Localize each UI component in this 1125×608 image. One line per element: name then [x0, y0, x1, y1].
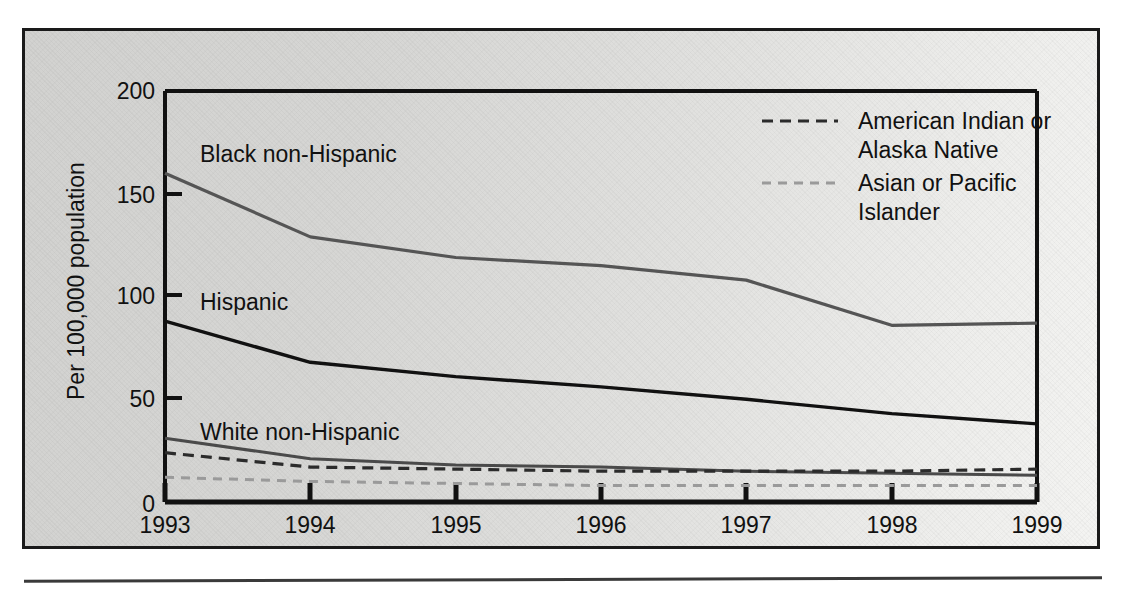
bottom-rule: [24, 576, 1102, 582]
chart-panel: [22, 28, 1100, 549]
panel-texture: [25, 31, 1097, 546]
figure-root: 200 150 100 50 0 Per 100,000 population …: [0, 0, 1125, 608]
